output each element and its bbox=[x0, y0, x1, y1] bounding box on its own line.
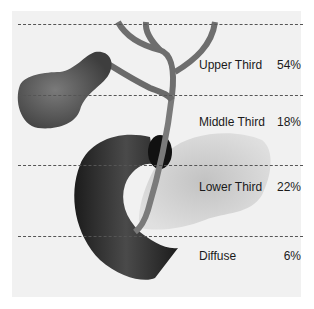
region-label-middle: Middle Third bbox=[199, 115, 265, 129]
region-label-lower: Lower Third bbox=[199, 180, 262, 194]
gallbladder-shape bbox=[18, 52, 112, 129]
divider-lower bbox=[18, 165, 303, 166]
region-label-upper: Upper Third bbox=[199, 58, 262, 72]
region-percent-diffuse: 6% bbox=[284, 249, 301, 263]
region-label-diffuse: Diffuse bbox=[199, 249, 236, 263]
region-percent-upper: 54% bbox=[277, 58, 301, 72]
divider-diffuse bbox=[18, 236, 303, 237]
region-percent-middle: 18% bbox=[277, 115, 301, 129]
anatomy-illustration bbox=[0, 0, 314, 309]
divider-upper bbox=[18, 24, 303, 25]
region-percent-lower: 22% bbox=[277, 180, 301, 194]
divider-middle bbox=[18, 95, 303, 96]
